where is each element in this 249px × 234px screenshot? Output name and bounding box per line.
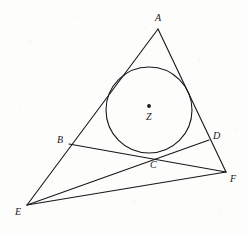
segment-AE bbox=[27, 29, 158, 205]
segment-EF bbox=[27, 172, 226, 205]
center-dot-Z bbox=[147, 104, 151, 108]
segment-ED bbox=[27, 140, 209, 205]
point-label-A: A bbox=[155, 13, 161, 23]
point-label-B: B bbox=[57, 135, 63, 145]
geometry-canvas bbox=[0, 0, 249, 234]
point-label-C: C bbox=[150, 160, 157, 170]
point-label-F: F bbox=[230, 174, 236, 184]
incircle bbox=[106, 67, 192, 153]
segment-AF bbox=[158, 29, 226, 172]
geometry-figure: A B C D E F Z bbox=[0, 0, 249, 234]
point-label-E: E bbox=[15, 207, 21, 217]
segment-BF bbox=[69, 144, 226, 172]
point-label-Z: Z bbox=[146, 112, 152, 122]
point-label-D: D bbox=[213, 131, 220, 141]
